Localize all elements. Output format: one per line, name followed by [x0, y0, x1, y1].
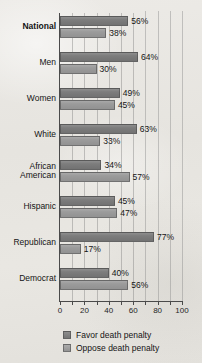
bar-favor	[60, 268, 109, 278]
bar-value-label: 47%	[120, 208, 137, 218]
bar-value-label: 40%	[112, 268, 129, 278]
bar-value-label: 45%	[118, 196, 135, 206]
x-axis-tick-label: 0	[58, 306, 62, 315]
bar-oppose	[60, 244, 81, 254]
x-axis-tick	[145, 301, 146, 305]
x-axis-tick	[97, 301, 98, 305]
death-penalty-bar-chart: 020406080100 56%38%64%30%49%45%63%33%34%…	[0, 0, 202, 363]
x-axis-tick	[170, 301, 171, 305]
bar-oppose	[60, 100, 115, 110]
bar-value-label: 45%	[118, 100, 135, 110]
x-axis-tick	[158, 301, 159, 305]
x-axis-tick-label: 40	[104, 306, 113, 315]
bar-oppose	[60, 136, 100, 146]
bar-value-label: 17%	[84, 244, 101, 254]
x-axis-tick	[60, 301, 61, 305]
bar-value-label: 57%	[133, 172, 150, 182]
category-label: Hispanic	[0, 202, 56, 212]
legend-label: Oppose death penalty	[76, 343, 159, 353]
bar-oppose	[60, 172, 130, 182]
bar-oppose	[60, 208, 117, 218]
bar-value-label: 63%	[140, 124, 157, 134]
legend-swatch-favor	[63, 331, 71, 339]
x-axis-tick	[72, 301, 73, 305]
bar-oppose	[60, 64, 97, 74]
bar-value-label: 49%	[123, 88, 140, 98]
bar-favor	[60, 232, 154, 242]
chart-legend: Favor death penaltyOppose death penalty	[63, 328, 159, 354]
category-label: Democrat	[0, 274, 56, 284]
gridline	[182, 11, 183, 302]
bar-value-label: 77%	[157, 232, 174, 242]
bar-favor	[60, 88, 120, 98]
category-label: White	[0, 130, 56, 140]
bar-favor	[60, 196, 115, 206]
bar-value-label: 56%	[131, 280, 148, 290]
x-axis-tick	[84, 301, 85, 305]
category-label: National	[0, 22, 56, 32]
x-axis-tick	[182, 301, 183, 305]
x-axis-tick-label: 20	[80, 306, 89, 315]
bar-favor	[60, 160, 101, 170]
bar-favor	[60, 16, 128, 26]
category-label: Republican	[0, 238, 56, 248]
bar-value-label: 64%	[141, 52, 158, 62]
category-label: Women	[0, 94, 56, 104]
plot-area: 56%38%64%30%49%45%63%33%34%57%45%47%77%1…	[60, 13, 182, 301]
x-axis-tick	[109, 301, 110, 305]
x-axis-tick-label: 100	[175, 306, 188, 315]
bar-value-label: 38%	[109, 28, 126, 38]
bar-value-label: 33%	[103, 136, 120, 146]
legend-item: Favor death penalty	[63, 328, 159, 341]
legend-item: Oppose death penalty	[63, 341, 159, 354]
bar-oppose	[60, 280, 128, 290]
category-label: Men	[0, 58, 56, 68]
x-axis-tick	[121, 301, 122, 305]
x-axis-tick	[133, 301, 134, 305]
bar-oppose	[60, 28, 106, 38]
x-axis-tick-label: 80	[153, 306, 162, 315]
category-label: African American	[0, 162, 56, 181]
bar-favor	[60, 124, 137, 134]
legend-swatch-oppose	[63, 344, 71, 352]
bar-favor	[60, 52, 138, 62]
bar-value-label: 30%	[100, 64, 117, 74]
x-axis-tick-label: 60	[129, 306, 138, 315]
bar-value-label: 34%	[104, 160, 121, 170]
bar-value-label: 56%	[131, 16, 148, 26]
legend-label: Favor death penalty	[76, 330, 151, 340]
